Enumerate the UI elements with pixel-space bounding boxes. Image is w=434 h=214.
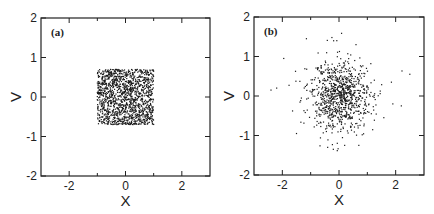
x-tick-label: 0 bbox=[336, 178, 343, 192]
figure: -202-2-1012XV(a) -202-2-1012XV(b) bbox=[0, 0, 434, 214]
y-tick-label: 2 bbox=[30, 11, 37, 25]
x-tick-label: 2 bbox=[392, 178, 399, 192]
x-axis-label: X bbox=[334, 191, 344, 208]
y-tick-label: 2 bbox=[243, 10, 250, 24]
y-tick-label: 0 bbox=[243, 89, 250, 103]
x-tick-label: -2 bbox=[277, 178, 288, 192]
panel-a: -202-2-1012XV(a) bbox=[7, 11, 210, 209]
x-tick-label: 0 bbox=[122, 179, 129, 193]
x-tick-label: 2 bbox=[178, 179, 185, 193]
panel-label: (b) bbox=[264, 25, 278, 38]
y-axis-label: V bbox=[7, 92, 24, 102]
x-axis-label: X bbox=[120, 192, 130, 209]
x-tick-label: -2 bbox=[64, 179, 75, 193]
scatter-points bbox=[270, 33, 410, 152]
panel-label: (a) bbox=[51, 26, 64, 39]
y-axis-label: V bbox=[220, 91, 237, 101]
y-tick-label: -2 bbox=[26, 169, 37, 183]
panel-b: -202-2-1012XV(b) bbox=[220, 10, 424, 208]
y-tick-label: 1 bbox=[243, 50, 250, 64]
y-tick-label: 1 bbox=[30, 51, 37, 65]
y-tick-label: -1 bbox=[239, 129, 250, 143]
scatter-points bbox=[97, 69, 155, 125]
y-tick-label: -1 bbox=[26, 130, 37, 144]
y-tick-label: -2 bbox=[239, 168, 250, 182]
y-tick-label: 0 bbox=[30, 90, 37, 104]
